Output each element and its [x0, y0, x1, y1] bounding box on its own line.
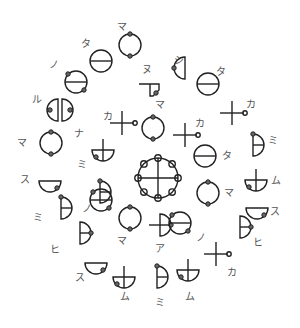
symbol-label: ノ: [82, 204, 92, 214]
symbol-ring-2dot-v-icon: [197, 180, 219, 206]
hub-icon: [135, 155, 181, 201]
symbol-label: ナ: [74, 129, 84, 139]
symbol-cross-dot-icon: [204, 242, 231, 266]
symbol-label: ノ: [49, 60, 59, 70]
symbol-label: ル: [32, 95, 42, 105]
symbol-half-down-vline-dot-icon: [245, 169, 267, 191]
symbol-label: ム: [120, 292, 130, 302]
symbol-label: タ: [81, 39, 91, 49]
symbol-label: ア: [155, 244, 165, 254]
symbol-circle-hline-2dot-icon: [169, 212, 191, 234]
symbol-half-right-hline-icon: [155, 264, 168, 288]
symbol-label: ス: [20, 175, 30, 185]
symbol-circle-hline-icon: [194, 145, 216, 167]
symbol-label: ス: [75, 273, 85, 283]
symbol-label: シ: [174, 56, 184, 66]
symbol-label: マ: [155, 100, 165, 110]
symbol-label: ミ: [268, 136, 278, 146]
symbol-half-right-hline-icon: [251, 132, 264, 156]
symbol-label: ム: [271, 176, 281, 186]
symbol-label: ヒ: [253, 238, 263, 248]
symbol-cross-dot-icon: [110, 111, 137, 135]
symbol-half-right-hline-dot-icon: [80, 222, 93, 244]
symbol-label: タ: [222, 151, 232, 161]
symbol-label: ヒ: [50, 245, 60, 255]
symbol-label: マ: [117, 236, 127, 246]
symbol-half-right-hline-icon: [59, 195, 72, 219]
symbol-step-dot-icon: [139, 84, 159, 96]
symbol-circle-hline-icon: [90, 50, 112, 72]
symbol-label: カ: [246, 100, 256, 110]
symbol-label: マ: [117, 22, 127, 32]
symbol-label: ヌ: [142, 65, 152, 75]
symbol-half-down-dot-icon: [39, 181, 61, 192]
symbol-diagram: [0, 0, 300, 328]
symbol-half-down-dot-icon: [85, 263, 107, 274]
symbol-label: カ: [103, 112, 113, 122]
symbol-label: マ: [17, 138, 27, 148]
symbol-half-down-vline-dot-icon: [92, 139, 114, 161]
symbol-circle-hline-2dot-icon: [65, 71, 87, 93]
symbol-ring-2dot-v-icon: [142, 115, 164, 141]
symbol-ring-2dot-v-icon: [40, 130, 62, 156]
symbol-label: ミ: [33, 213, 43, 223]
symbol-label: ミ: [155, 298, 165, 308]
symbol-label: ノ: [196, 233, 206, 243]
symbol-cross-dot-icon: [220, 101, 247, 125]
symbol-half-down-vline-dot-icon: [177, 259, 199, 281]
symbol-half-right-hline-dot-icon: [240, 216, 253, 238]
symbol-half-down-dot-icon: [246, 208, 268, 219]
symbol-ring-2dot-v-icon: [119, 205, 141, 231]
symbol-circle-vsplit-icon: [47, 99, 73, 121]
symbol-label: ス: [270, 207, 280, 217]
symbol-ring-2dot-v-icon: [119, 32, 141, 58]
symbol-half-down-vline-dot-icon: [113, 266, 135, 288]
symbol-label: カ: [227, 268, 237, 278]
symbol-label: タ: [216, 67, 226, 77]
symbol-label: ム: [185, 292, 195, 302]
symbol-label: マ: [224, 188, 234, 198]
symbol-label: カ: [195, 119, 205, 129]
symbol-label: ミ: [77, 160, 87, 170]
